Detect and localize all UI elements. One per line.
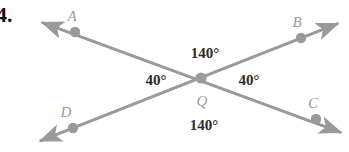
point-label-D: D (61, 105, 72, 120)
point-label-Q: Q (197, 94, 208, 109)
geometry-figure-canvas: 4. A B C D Q 140° 40° 40° 140° (0, 0, 349, 152)
point-label-C: C (308, 96, 318, 111)
point-dot-C (311, 114, 321, 124)
angle-label-bottom: 140° (190, 118, 219, 133)
point-dot-A (70, 27, 80, 37)
point-label-A: A (67, 9, 76, 24)
point-dot-B (296, 33, 306, 43)
angle-label-right: 40° (239, 73, 260, 88)
point-label-B: B (292, 15, 301, 30)
angle-label-left: 40° (146, 73, 167, 88)
point-dot-Q (195, 72, 206, 83)
angle-label-top: 140° (191, 46, 220, 61)
point-dot-D (68, 123, 78, 133)
